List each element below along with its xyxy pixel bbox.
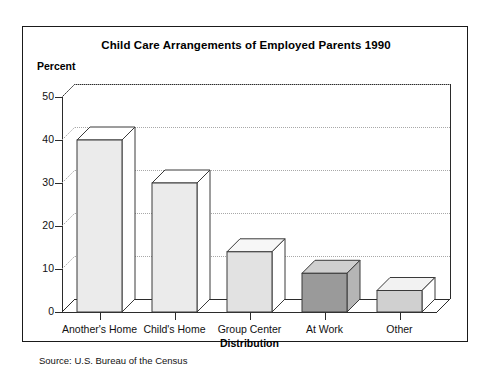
bar-front-face <box>377 291 422 313</box>
x-tick-mark <box>400 312 401 320</box>
x-category-label: Group Center <box>212 323 287 335</box>
x-tick-mark <box>100 312 101 320</box>
x-axis-title: Distribution <box>62 337 437 349</box>
x-category-label: Child's Home <box>137 323 212 335</box>
x-category-label: Other <box>362 323 437 335</box>
x-tick-mark <box>325 312 326 320</box>
plot-area: 01020304050 Another's HomeChild's HomeGr… <box>23 27 469 343</box>
x-category-label: At Work <box>287 323 362 335</box>
x-tick-mark <box>250 312 251 320</box>
x-tick-mark <box>175 312 176 320</box>
chart-figure-frame: Child Care Arrangements of Employed Pare… <box>22 26 468 342</box>
source-note: Source: U.S. Bureau of the Census <box>39 355 187 366</box>
bar-3d[interactable] <box>23 27 469 343</box>
x-category-label: Another's Home <box>62 323 137 335</box>
